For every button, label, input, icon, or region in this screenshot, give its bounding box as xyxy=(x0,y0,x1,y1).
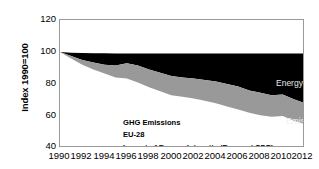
y-tick-120: 120 xyxy=(32,14,56,24)
y-tick-80: 80 xyxy=(32,78,56,88)
chart-figure: Index 1990=100 120 100 80 60 40 Energy-I… xyxy=(0,0,319,169)
y-tick-100: 100 xyxy=(32,46,56,56)
annotation-line-3: Impact of Energy Intensity (Energy / GDP… xyxy=(123,142,287,147)
y-axis-tick-labels: 120 100 80 60 40 xyxy=(28,0,56,169)
annotation-line-2: EU-28 xyxy=(123,129,287,141)
x-axis-tick-labels: 1990 1992 1994 1996 1998 2000 2002 2004 … xyxy=(59,150,304,166)
x-tick-2012: 2012 xyxy=(289,150,315,161)
chart-annotation: GHG Emissions EU-28 Impact of Energy Int… xyxy=(123,117,287,147)
y-tick-60: 60 xyxy=(32,110,56,120)
annotation-line-1: GHG Emissions xyxy=(123,117,287,129)
plot-area: Energy-Intensity Emissions Intensity Tot… xyxy=(59,19,304,147)
